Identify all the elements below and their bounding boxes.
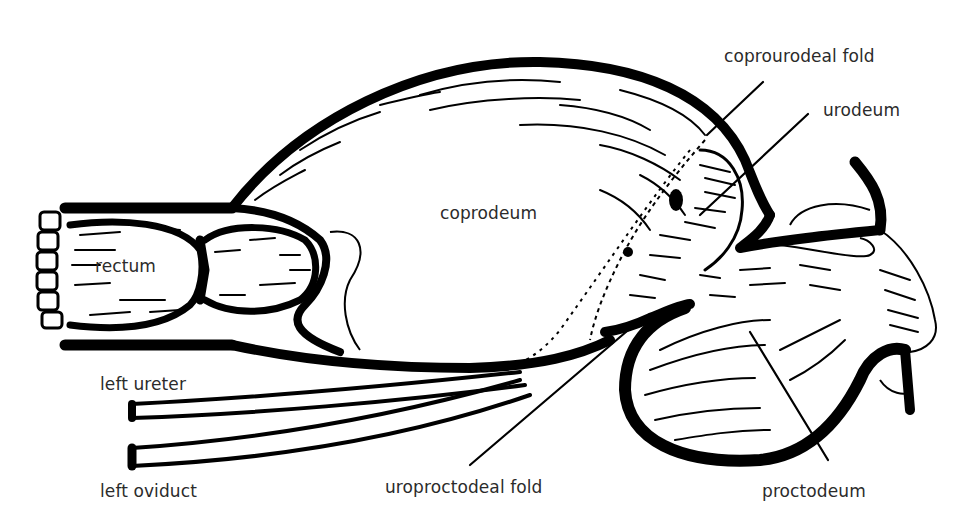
coprodeum-wall	[232, 62, 770, 215]
proctodeum-wall	[625, 308, 905, 461]
label-proctodeum: proctodeum	[762, 481, 866, 501]
label-coprodeum: coprodeum	[440, 203, 537, 223]
leader-coprourodeal-fold	[707, 82, 763, 135]
rectum-end	[37, 212, 62, 328]
leader-uroproctodeal-fold	[470, 320, 640, 465]
label-left-ureter: left ureter	[100, 374, 186, 394]
label-rectum: rectum	[95, 256, 156, 276]
label-left-oviduct: left oviduct	[100, 481, 197, 501]
label-coprourodeal-fold: coprourodeal fold	[724, 46, 875, 66]
cloaca-diagram: coprourodeal fold urodeum coprodeum rect…	[0, 0, 959, 526]
leader-urodeum	[700, 114, 808, 215]
left-oviduct-tube	[132, 380, 530, 466]
coprodeum-floor	[232, 340, 610, 368]
label-uroproctodeal-fold: uroproctodeal fold	[385, 477, 543, 497]
urodeum-wall	[740, 215, 880, 248]
ureter-opening	[669, 189, 683, 211]
leader-proctodeum	[750, 332, 828, 460]
label-urodeum: urodeum	[823, 100, 900, 120]
